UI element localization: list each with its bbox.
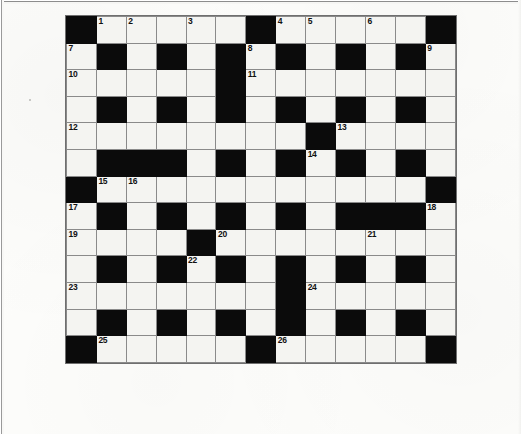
crossword-cell-white[interactable] <box>306 176 336 203</box>
crossword-cell-white[interactable] <box>306 70 336 97</box>
crossword-cell-white[interactable] <box>395 123 425 150</box>
crossword-cell-white[interactable] <box>67 149 97 176</box>
crossword-cell-white[interactable]: 11 <box>246 70 276 97</box>
crossword-cell-white[interactable]: 13 <box>336 123 366 150</box>
crossword-cell-white[interactable] <box>186 282 216 309</box>
crossword-cell-white[interactable] <box>425 229 455 256</box>
crossword-cell-white[interactable] <box>246 203 276 230</box>
crossword-cell-white[interactable] <box>365 70 395 97</box>
crossword-cell-white[interactable] <box>365 43 395 70</box>
crossword-cell-white[interactable]: 21 <box>365 229 395 256</box>
crossword-cell-white[interactable]: 9 <box>425 43 455 70</box>
crossword-cell-white[interactable] <box>156 70 186 97</box>
crossword-cell-white[interactable]: 15 <box>96 176 126 203</box>
crossword-cell-white[interactable] <box>306 229 336 256</box>
crossword-cell-white[interactable]: 10 <box>67 70 97 97</box>
crossword-cell-white[interactable] <box>276 123 306 150</box>
crossword-cell-white[interactable] <box>395 336 425 363</box>
crossword-cell-white[interactable] <box>365 336 395 363</box>
crossword-cell-white[interactable]: 26 <box>276 336 306 363</box>
crossword-cell-white[interactable] <box>336 70 366 97</box>
crossword-cell-white[interactable]: 19 <box>67 229 97 256</box>
crossword-cell-white[interactable] <box>186 149 216 176</box>
crossword-cell-white[interactable] <box>246 149 276 176</box>
crossword-cell-white[interactable] <box>395 17 425 44</box>
crossword-cell-white[interactable]: 24 <box>306 282 336 309</box>
crossword-cell-white[interactable] <box>67 256 97 283</box>
crossword-cell-white[interactable] <box>216 17 246 44</box>
crossword-cell-white[interactable] <box>336 336 366 363</box>
crossword-cell-white[interactable] <box>395 176 425 203</box>
crossword-cell-white[interactable] <box>246 282 276 309</box>
crossword-cell-white[interactable]: 22 <box>186 256 216 283</box>
crossword-cell-white[interactable] <box>276 229 306 256</box>
crossword-cell-white[interactable] <box>425 256 455 283</box>
crossword-cell-white[interactable] <box>186 336 216 363</box>
crossword-cell-white[interactable] <box>216 176 246 203</box>
crossword-cell-white[interactable] <box>216 336 246 363</box>
crossword-cell-white[interactable] <box>425 123 455 150</box>
crossword-cell-white[interactable] <box>126 96 156 123</box>
crossword-cell-white[interactable] <box>216 282 246 309</box>
crossword-cell-white[interactable] <box>156 282 186 309</box>
crossword-cell-white[interactable]: 23 <box>67 282 97 309</box>
crossword-cell-white[interactable]: 7 <box>67 43 97 70</box>
crossword-cell-white[interactable] <box>365 309 395 336</box>
crossword-cell-white[interactable] <box>306 309 336 336</box>
crossword-cell-white[interactable] <box>425 282 455 309</box>
crossword-cell-white[interactable] <box>96 282 126 309</box>
crossword-cell-white[interactable] <box>246 123 276 150</box>
crossword-cell-white[interactable] <box>156 336 186 363</box>
crossword-cell-white[interactable] <box>395 229 425 256</box>
crossword-cell-white[interactable] <box>186 96 216 123</box>
crossword-cell-white[interactable] <box>126 256 156 283</box>
crossword-cell-white[interactable] <box>246 309 276 336</box>
crossword-cell-white[interactable] <box>156 229 186 256</box>
crossword-cell-white[interactable]: 16 <box>126 176 156 203</box>
crossword-cell-white[interactable] <box>425 309 455 336</box>
crossword-cell-white[interactable] <box>276 70 306 97</box>
crossword-cell-white[interactable] <box>365 123 395 150</box>
crossword-cell-white[interactable]: 12 <box>67 123 97 150</box>
crossword-cell-white[interactable] <box>246 256 276 283</box>
crossword-cell-white[interactable]: 17 <box>67 203 97 230</box>
crossword-cell-white[interactable] <box>336 282 366 309</box>
crossword-cell-white[interactable] <box>395 70 425 97</box>
crossword-cell-white[interactable] <box>365 256 395 283</box>
crossword-cell-white[interactable] <box>336 176 366 203</box>
crossword-cell-white[interactable] <box>306 256 336 283</box>
crossword-cell-white[interactable] <box>365 176 395 203</box>
crossword-cell-white[interactable] <box>126 123 156 150</box>
crossword-cell-white[interactable]: 14 <box>306 149 336 176</box>
crossword-cell-white[interactable] <box>425 70 455 97</box>
crossword-grid[interactable]: 1234567891011121314151617181920212223242… <box>66 16 456 363</box>
crossword-cell-white[interactable] <box>96 70 126 97</box>
crossword-cell-white[interactable]: 3 <box>186 17 216 44</box>
crossword-cell-white[interactable] <box>126 336 156 363</box>
crossword-cell-white[interactable]: 6 <box>365 17 395 44</box>
crossword-cell-white[interactable]: 2 <box>126 17 156 44</box>
crossword-cell-white[interactable] <box>96 123 126 150</box>
crossword-cell-white[interactable] <box>186 43 216 70</box>
crossword-cell-white[interactable]: 8 <box>246 43 276 70</box>
crossword-cell-white[interactable] <box>126 203 156 230</box>
crossword-cell-white[interactable] <box>425 96 455 123</box>
crossword-cell-white[interactable] <box>186 309 216 336</box>
crossword-cell-white[interactable] <box>186 123 216 150</box>
crossword-cell-white[interactable] <box>395 282 425 309</box>
crossword-cell-white[interactable]: 1 <box>96 17 126 44</box>
crossword-cell-white[interactable]: 4 <box>276 17 306 44</box>
crossword-cell-white[interactable]: 5 <box>306 17 336 44</box>
crossword-cell-white[interactable] <box>186 70 216 97</box>
crossword-cell-white[interactable] <box>186 176 216 203</box>
crossword-cell-white[interactable] <box>126 43 156 70</box>
crossword-cell-white[interactable] <box>365 282 395 309</box>
crossword-cell-white[interactable] <box>306 43 336 70</box>
crossword-cell-white[interactable]: 25 <box>96 336 126 363</box>
crossword-cell-white[interactable] <box>306 96 336 123</box>
crossword-cell-white[interactable] <box>365 149 395 176</box>
crossword-cell-white[interactable] <box>126 309 156 336</box>
crossword-cell-white[interactable] <box>67 309 97 336</box>
crossword-cell-white[interactable] <box>246 96 276 123</box>
crossword-cell-white[interactable] <box>306 336 336 363</box>
